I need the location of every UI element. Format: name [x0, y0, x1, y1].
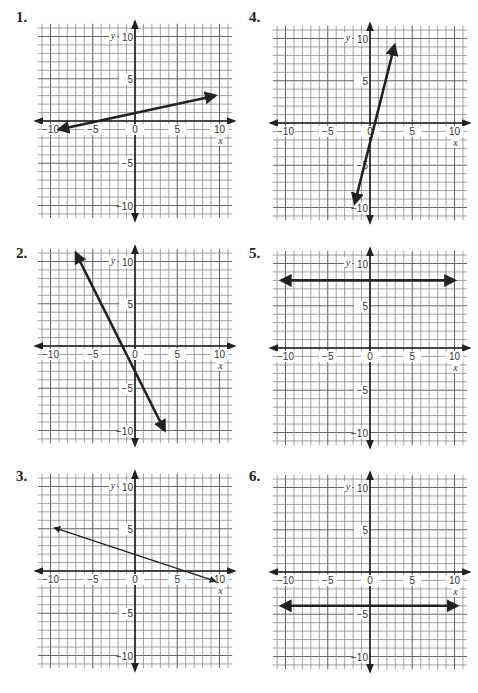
svg-text:y: y: [345, 32, 351, 43]
svg-text:x: x: [452, 137, 458, 148]
axes: [270, 248, 469, 447]
svg-text:0: 0: [132, 574, 138, 585]
svg-text:x: x: [217, 360, 223, 371]
coordinate-graph: −10−50510105−5−10yx: [0, 240, 238, 465]
svg-text:−10: −10: [42, 124, 59, 135]
axes: [35, 471, 234, 670]
svg-text:−5: −5: [87, 124, 99, 135]
svg-text:y: y: [110, 480, 116, 491]
problem-6: 6. −10−50510105−5−10yx: [238, 465, 476, 693]
svg-text:−10: −10: [351, 652, 368, 663]
svg-text:10: 10: [214, 124, 226, 135]
svg-text:−5: −5: [122, 158, 134, 169]
svg-text:−5: −5: [87, 574, 99, 585]
svg-text:x: x: [452, 586, 458, 597]
svg-text:5: 5: [362, 76, 368, 87]
coordinate-graph: −10−50510105−5−10yx: [238, 0, 478, 230]
svg-text:−10: −10: [277, 351, 294, 362]
svg-text:−5: −5: [357, 609, 369, 620]
svg-text:−10: −10: [351, 428, 368, 439]
svg-text:−10: −10: [116, 651, 133, 662]
svg-text:10: 10: [357, 259, 369, 270]
svg-text:5: 5: [127, 299, 133, 310]
svg-text:y: y: [110, 30, 116, 41]
svg-text:0: 0: [132, 349, 138, 360]
coordinate-graph: −10−50510105−5−10yx: [0, 0, 238, 230]
svg-text:−5: −5: [122, 608, 134, 619]
svg-text:5: 5: [174, 349, 180, 360]
svg-text:10: 10: [449, 126, 461, 137]
svg-text:y: y: [110, 255, 116, 266]
svg-text:−5: −5: [322, 351, 334, 362]
problem-3: 3. −10−50510105−5−10yx: [0, 465, 238, 693]
axes: [35, 21, 234, 220]
svg-text:5: 5: [409, 575, 415, 586]
coordinate-graph: −10−50510105−5−10yx: [238, 240, 478, 465]
problem-1: 1. −10−50510105−5−10yx: [0, 0, 238, 230]
coordinate-graph: −10−50510105−5−10yx: [238, 465, 478, 693]
svg-text:5: 5: [174, 574, 180, 585]
problem-4: 4. −10−50510105−5−10yx: [238, 0, 476, 230]
svg-text:0: 0: [367, 575, 373, 586]
svg-text:10: 10: [449, 575, 461, 586]
svg-text:5: 5: [409, 126, 415, 137]
svg-text:−10: −10: [277, 126, 294, 137]
svg-text:x: x: [217, 585, 223, 596]
svg-text:−10: −10: [42, 349, 59, 360]
svg-text:10: 10: [214, 574, 226, 585]
svg-text:x: x: [452, 362, 458, 373]
svg-text:−5: −5: [122, 383, 134, 394]
plotted-line: [355, 45, 395, 203]
svg-text:10: 10: [122, 482, 134, 493]
axes: [270, 472, 469, 671]
svg-text:10: 10: [357, 34, 369, 45]
svg-text:−10: −10: [351, 203, 368, 214]
svg-text:5: 5: [127, 524, 133, 535]
svg-text:5: 5: [362, 525, 368, 536]
svg-text:−5: −5: [322, 126, 334, 137]
svg-text:−5: −5: [357, 385, 369, 396]
svg-text:y: y: [345, 257, 351, 268]
svg-text:5: 5: [174, 124, 180, 135]
svg-text:−10: −10: [277, 575, 294, 586]
svg-text:−10: −10: [116, 201, 133, 212]
plotted-line: [76, 253, 165, 430]
svg-text:10: 10: [449, 351, 461, 362]
svg-text:5: 5: [409, 351, 415, 362]
svg-text:5: 5: [127, 74, 133, 85]
problem-5: 5. −10−50510105−5−10yx: [238, 240, 476, 465]
svg-text:10: 10: [357, 483, 369, 494]
svg-text:10: 10: [122, 257, 134, 268]
svg-text:−5: −5: [322, 575, 334, 586]
axes: [270, 23, 469, 222]
coordinate-graph: −10−50510105−5−10yx: [0, 465, 238, 693]
svg-text:10: 10: [214, 349, 226, 360]
axes: [35, 246, 234, 445]
svg-text:y: y: [345, 481, 351, 492]
svg-text:0: 0: [367, 351, 373, 362]
svg-text:−10: −10: [42, 574, 59, 585]
problem-2: 2. −10−50510105−5−10yx: [0, 240, 238, 465]
svg-text:10: 10: [122, 32, 134, 43]
svg-text:−10: −10: [116, 426, 133, 437]
svg-text:x: x: [217, 135, 223, 146]
svg-text:0: 0: [132, 124, 138, 135]
svg-text:5: 5: [362, 301, 368, 312]
svg-text:−5: −5: [87, 349, 99, 360]
